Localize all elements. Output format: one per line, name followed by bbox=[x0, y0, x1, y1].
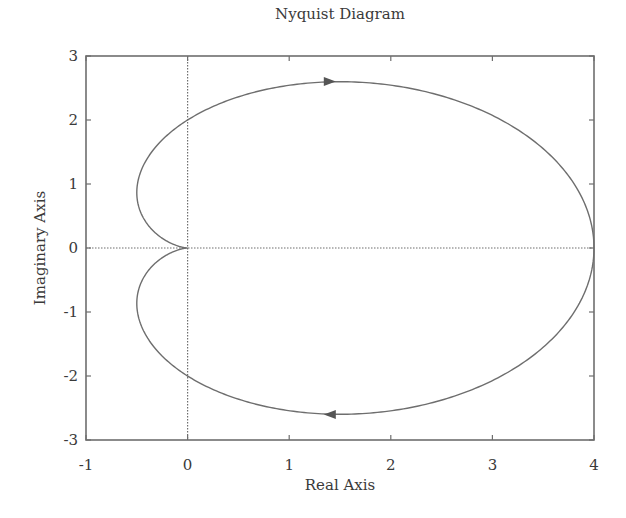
y-tick-label: 2 bbox=[68, 111, 78, 129]
y-tick-label: 1 bbox=[68, 175, 78, 193]
y-tick-labels: -3-2-10123 bbox=[63, 47, 78, 449]
x-tick-label: 4 bbox=[589, 456, 599, 474]
y-tick-label: 0 bbox=[68, 239, 78, 257]
y-tick-label: -1 bbox=[63, 303, 78, 321]
arrow-right-icon bbox=[324, 77, 336, 86]
y-axis-label: Imaginary Axis bbox=[31, 191, 49, 305]
arrow-left-icon bbox=[324, 410, 336, 419]
y-tick-label: -3 bbox=[63, 431, 78, 449]
x-tick-label: 3 bbox=[488, 456, 498, 474]
x-tick-label: -1 bbox=[79, 456, 94, 474]
chart-title: Nyquist Diagram bbox=[275, 5, 405, 23]
x-tick-label: 0 bbox=[183, 456, 193, 474]
x-axis-label: Real Axis bbox=[305, 476, 375, 494]
reference-lines bbox=[86, 56, 594, 440]
y-tick-label: 3 bbox=[68, 47, 78, 65]
x-tick-labels: -101234 bbox=[79, 456, 599, 474]
y-tick-label: -2 bbox=[63, 367, 78, 385]
x-tick-label: 1 bbox=[284, 456, 294, 474]
nyquist-chart: Nyquist Diagram -101234 -3-2-10123 Real … bbox=[0, 0, 626, 518]
x-tick-label: 2 bbox=[386, 456, 396, 474]
